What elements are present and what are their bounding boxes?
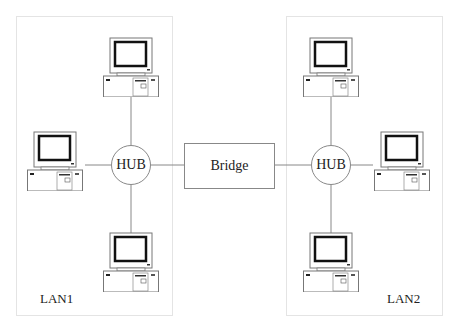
computer-icon [27, 131, 83, 191]
lan1-label: LAN1 [40, 291, 73, 307]
computer-icon [103, 232, 159, 292]
computer-icon [303, 232, 359, 292]
bridge-box: Bridge [184, 143, 275, 189]
computer-icon [103, 37, 159, 97]
computer-icon [374, 131, 430, 191]
lan2-label: LAN2 [387, 291, 420, 307]
hub-lan1: HUB [111, 145, 151, 185]
hub-lan2: HUB [311, 145, 351, 185]
computer-icon [303, 37, 359, 97]
